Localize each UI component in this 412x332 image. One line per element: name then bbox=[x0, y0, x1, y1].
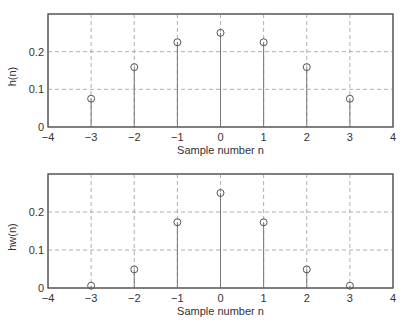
stem-plots-svg: −4−3−2−10123400.10.2Sample number nh(n) … bbox=[0, 0, 412, 332]
x-tick-label: −3 bbox=[85, 131, 98, 143]
x-tick-label: 4 bbox=[390, 292, 396, 304]
x-tick-label: 1 bbox=[261, 131, 267, 143]
x-tick-label: 0 bbox=[217, 131, 223, 143]
x-axis-label: Sample number n bbox=[177, 144, 264, 156]
x-tick-label: −2 bbox=[128, 292, 141, 304]
x-tick-label: 0 bbox=[217, 292, 223, 304]
y-tick-label: 0 bbox=[38, 121, 44, 133]
impulse-response-plot: −4−3−2−10123400.10.2Sample number nh(n) bbox=[6, 14, 396, 156]
figure: −4−3−2−10123400.10.2Sample number nh(n) … bbox=[0, 0, 412, 332]
x-tick-label: 4 bbox=[390, 131, 396, 143]
y-tick-label: 0 bbox=[38, 282, 44, 294]
x-tick-label: −3 bbox=[85, 292, 98, 304]
x-axis-label: Sample number n bbox=[177, 305, 264, 317]
y-tick-label: 0.1 bbox=[29, 244, 44, 256]
x-tick-label: 3 bbox=[347, 131, 353, 143]
x-tick-label: −1 bbox=[171, 131, 184, 143]
y-axis-label: h(n) bbox=[6, 67, 18, 87]
y-tick-label: 0.2 bbox=[29, 206, 44, 218]
x-tick-label: 1 bbox=[261, 292, 267, 304]
x-tick-label: 2 bbox=[304, 292, 310, 304]
windowed-impulse-response-plot: −4−3−2−10123400.10.2Sample number nhw(n) bbox=[6, 174, 396, 317]
x-tick-label: −2 bbox=[128, 131, 141, 143]
x-tick-label: −1 bbox=[171, 292, 184, 304]
y-tick-label: 0.1 bbox=[29, 83, 44, 95]
x-tick-label: 3 bbox=[347, 292, 353, 304]
x-tick-label: 2 bbox=[304, 131, 310, 143]
y-tick-label: 0.2 bbox=[29, 46, 44, 58]
y-axis-label: hw(n) bbox=[6, 223, 18, 251]
